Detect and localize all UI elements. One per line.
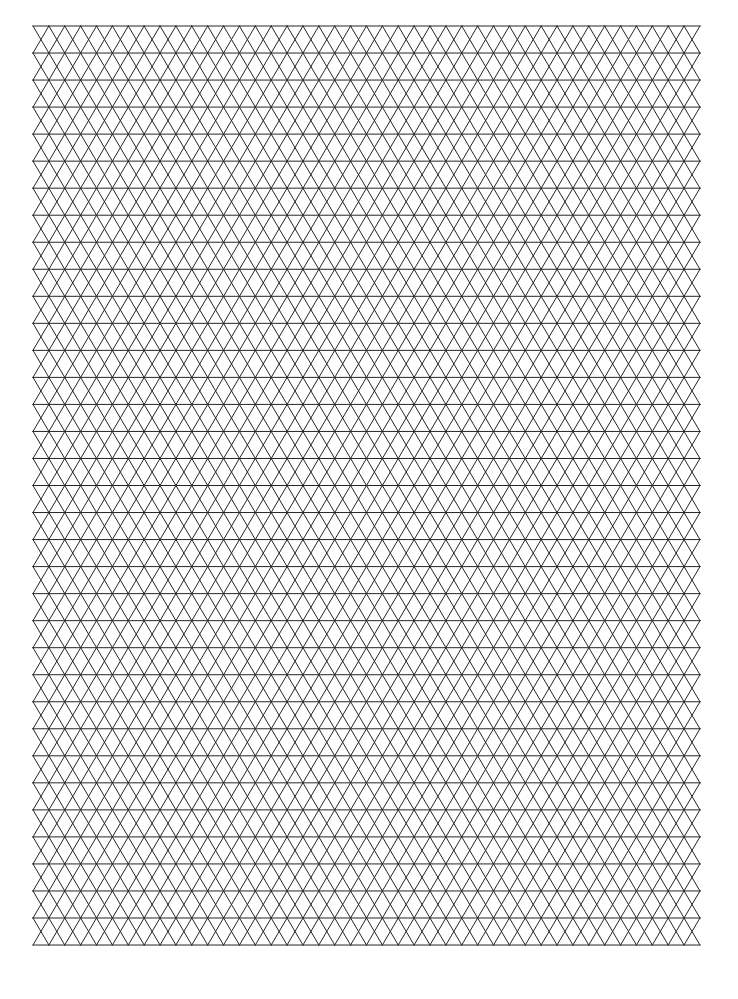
page-canvas (0, 0, 738, 999)
triangular-grid (0, 0, 738, 999)
